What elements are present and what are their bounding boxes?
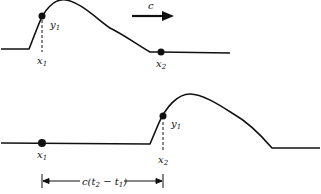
top-x1-label: x1 <box>37 55 47 68</box>
wave-diagram: x1 y1 x2 c x1 x2 y1 c(t2 − t1) <box>0 0 321 194</box>
bottom-x2-label: x2 <box>158 154 169 167</box>
right-arrow-icon <box>132 11 174 21</box>
top-pulse <box>1 0 230 53</box>
bottom-x1-label: x1 <box>37 149 47 162</box>
y1-point-dot <box>39 13 46 20</box>
bottom-y1-dot <box>160 113 167 120</box>
x2-point-dot <box>158 49 165 56</box>
distance-label: c(t2 − t1) <box>82 176 127 189</box>
top-y1-label: y1 <box>49 19 60 32</box>
velocity-label: c <box>148 0 154 11</box>
bottom-pulse <box>1 94 320 148</box>
bottom-x1-dot <box>38 139 46 147</box>
bottom-y1-label: y1 <box>170 118 181 131</box>
top-x2-label: x2 <box>156 58 167 71</box>
